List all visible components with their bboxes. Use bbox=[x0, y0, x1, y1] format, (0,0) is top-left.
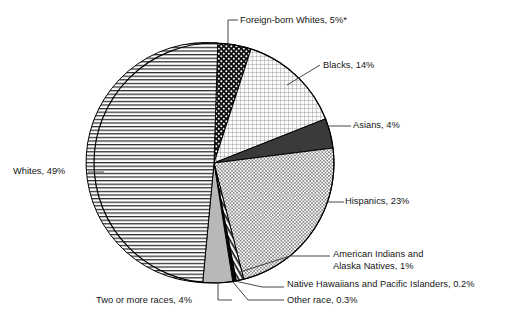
slice-label-foreign-born-whites: Foreign-born Whites, 5%* bbox=[240, 15, 347, 27]
pie-chart-figure: Foreign-born Whites, 5%* Blacks, 14% Asi… bbox=[0, 0, 513, 332]
slice-label-american-indians-line-2: Alaska Natives, 1% bbox=[333, 261, 468, 273]
leader-line-other-race bbox=[233, 282, 284, 300]
slice-label-whites: Whites, 49% bbox=[13, 166, 65, 178]
leader-line-foreign-born-whites bbox=[228, 20, 238, 46]
slice-label-american-indians-line-1: American Indians and bbox=[333, 249, 468, 261]
slice-label-american-indians-and-alaska-natives: American Indians and Alaska Natives, 1% bbox=[333, 249, 468, 272]
pie-slice-whites[interactable] bbox=[86, 42, 218, 282]
leader-line-native-hawaiians-and-pacific-islanders bbox=[235, 281, 284, 287]
slice-label-blacks: Blacks, 14% bbox=[323, 60, 374, 72]
slice-label-other-race: Other race, 0.3% bbox=[287, 295, 358, 307]
slice-label-native-hawaiians-and-pacific-islanders: Native Hawaiians and Pacific Islanders, … bbox=[287, 279, 474, 291]
slice-label-asians: Asians, 4% bbox=[353, 120, 400, 132]
slice-label-two-or-more-races: Two or more races, 4% bbox=[96, 295, 192, 307]
slice-label-hispanics: Hispanics, 23% bbox=[345, 196, 409, 208]
leader-line-two-or-more-races bbox=[218, 282, 232, 300]
